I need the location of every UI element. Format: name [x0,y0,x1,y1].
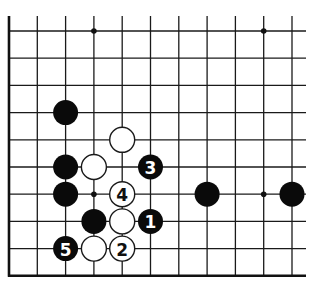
white-stone-icon [110,127,135,152]
black-stone-icon [53,100,78,125]
white-stone [110,209,135,234]
black-stone: 1 [138,209,163,234]
black-stone-icon [280,182,305,207]
black-stone [53,182,78,207]
black-stone: 3 [138,155,163,180]
star-point-icon [261,28,267,34]
black-stone-icon [195,182,220,207]
white-stone-icon [110,209,135,234]
black-stone [195,182,220,207]
black-stone [53,155,78,180]
board-grid [9,16,306,276]
black-stone-icon [53,155,78,180]
white-stone: 4 [110,182,135,207]
move-number-label: 2 [116,240,128,260]
white-stone [81,155,106,180]
move-number-label: 4 [116,185,128,205]
black-stone-icon [81,209,106,234]
white-stone [81,236,106,261]
board-edges [8,16,306,277]
star-point-icon [261,191,267,197]
star-point-icon [91,191,97,197]
white-stone-icon [81,155,106,180]
white-stone-icon [81,236,106,261]
black-stone [280,182,305,207]
move-number-label: 3 [145,158,157,178]
black-stone [81,209,106,234]
black-stone [53,100,78,125]
star-point-icon [91,28,97,34]
black-stone-icon [53,182,78,207]
white-stone [110,127,135,152]
move-number-label: 5 [60,240,72,260]
white-stone: 2 [110,236,135,261]
black-stone: 5 [53,236,78,261]
move-number-label: 1 [145,212,157,232]
go-board-diagram: 34152 [0,0,318,290]
